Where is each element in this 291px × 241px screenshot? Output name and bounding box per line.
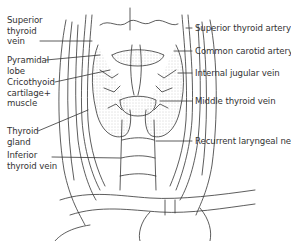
label-internal-jugular-vein: Internal jugular vein	[195, 68, 280, 79]
label-thyroid-gland: Thyroid gland	[7, 126, 39, 147]
label-recurrent-laryngeal-nerve: Recurrent laryngeal nerve	[195, 136, 291, 147]
thyroid-anatomy-illustration	[0, 0, 291, 241]
label-cricothyoid: Cricothyoid cartilage+ muscle	[7, 77, 55, 109]
label-inferior-thyroid-vein: Inferior thyroid vein	[7, 150, 57, 171]
label-middle-thyroid-vein: Middle thyroid vein	[195, 96, 276, 107]
label-superior-thyroid-vein: Superior thyroid vein	[7, 15, 43, 47]
label-common-carotid-artery: Common carotid artery	[195, 46, 291, 57]
label-pyramidal-lobe: Pyramidal lobe	[7, 55, 49, 76]
label-superior-thyroid-artery: Superior thyroid artery	[195, 23, 291, 34]
